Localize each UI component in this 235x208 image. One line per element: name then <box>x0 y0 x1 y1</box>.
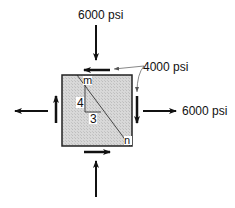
right-normal-stress-label: 6000 psi <box>182 105 227 117</box>
shear-stress-label: 4000 psi <box>143 61 188 73</box>
point-n-label: n <box>124 135 130 146</box>
stress-element <box>62 75 132 146</box>
point-m-label: m <box>83 75 92 86</box>
top-normal-stress-label: 6000 psi <box>78 9 123 21</box>
shear-leader-top <box>114 66 144 69</box>
slope-run-label: 3 <box>90 113 97 125</box>
slope-rise-label: 4 <box>77 97 84 109</box>
